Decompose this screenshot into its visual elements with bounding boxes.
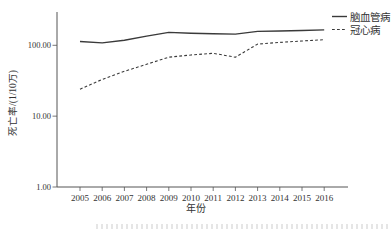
x-tick-label: 2009 <box>160 193 179 203</box>
y-tick-label: 100.00 <box>28 40 51 50</box>
y-tick-label: 1.00 <box>36 182 51 192</box>
x-tick-label: 2008 <box>138 193 157 203</box>
cropped-caption-fragment <box>96 224 390 229</box>
x-axis-title: 年份 <box>186 202 206 214</box>
x-axis-ticks: 2005200620072008200920102011201220132014… <box>71 187 334 203</box>
y-axis-ticks: 1.0010.00100.00 <box>28 40 57 192</box>
x-tick-label: 2014 <box>271 193 290 203</box>
mortality-trend-line-chart-figure: 1.0010.00100.00 200520062007200820092010… <box>0 0 392 229</box>
y-tick-label: 10.00 <box>32 111 51 121</box>
x-tick-label: 2012 <box>226 193 244 203</box>
x-tick-label: 2015 <box>293 193 312 203</box>
series-line-cerebrovascular-disease <box>80 30 324 43</box>
x-tick-label: 2013 <box>249 193 268 203</box>
legend: 脑血管病 冠心病 <box>332 11 391 36</box>
y-axis-title: 死亡率/(1/10万) <box>7 70 19 136</box>
series-line-coronary-heart-disease <box>80 40 324 89</box>
x-tick-label: 2006 <box>93 193 112 203</box>
x-tick-label: 2011 <box>204 193 222 203</box>
axes <box>57 12 348 187</box>
legend-label-cerebrovascular: 脑血管病 <box>350 11 391 23</box>
x-tick-label: 2016 <box>315 193 334 203</box>
legend-label-coronary: 冠心病 <box>350 24 381 36</box>
x-tick-label: 2005 <box>71 193 90 203</box>
line-chart: 1.0010.00100.00 200520062007200820092010… <box>0 0 392 229</box>
x-tick-label: 2007 <box>115 193 134 203</box>
x-tick-label: 2010 <box>182 193 201 203</box>
